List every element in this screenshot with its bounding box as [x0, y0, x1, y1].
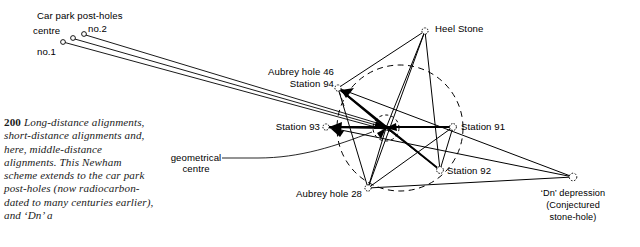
node-dn-depression[interactable]	[569, 173, 577, 181]
node-carpark-no2[interactable]	[82, 32, 87, 37]
node-station-92[interactable]	[437, 167, 444, 174]
node-aubrey-hole-28[interactable]	[365, 185, 371, 191]
label-station-93: Station 93	[196, 121, 320, 132]
label-car-park-post-holes: Car park post-holes	[37, 10, 123, 21]
node-carpark-no1[interactable]	[61, 40, 66, 45]
label-geometrical-centre-line1: geometrical	[168, 152, 224, 163]
label-car-park-no2: no.2	[88, 23, 107, 34]
label-aubrey-hole-46: Aubrey hole 46	[206, 66, 334, 77]
line-station94-aubrey28	[338, 88, 368, 188]
label-heel-stone: Heel Stone	[435, 23, 483, 34]
label-station-92: Station 92	[447, 165, 491, 176]
label-dn-depression-line3: stone-hole)	[523, 212, 623, 223]
node-carpark-centre[interactable]	[71, 36, 76, 41]
label-dn-depression-line1: ‘Dn’ depression	[523, 188, 623, 199]
label-geometrical-centre-line2: centre	[168, 163, 224, 174]
node-station-93[interactable]	[323, 124, 329, 130]
label-car-park-no1: no.1	[37, 46, 56, 57]
node-markers	[61, 28, 577, 191]
label-car-park-centre: centre	[33, 25, 60, 36]
line-station92-station91	[440, 127, 453, 170]
line-station94-dn	[338, 88, 573, 177]
node-station-91[interactable]	[450, 124, 457, 131]
geometrical-centre-leader	[222, 132, 372, 158]
line-station94-heelstone	[338, 31, 425, 88]
node-station-94[interactable]	[335, 85, 341, 91]
line-heelstone-aubrey28	[368, 31, 425, 188]
label-station-91: Station 91	[461, 121, 505, 132]
node-heel-stone[interactable]	[422, 28, 428, 34]
label-dn-depression-line2: (Conjectured	[523, 200, 623, 211]
label-aubrey-hole-28: Aubrey hole 28	[180, 188, 362, 199]
figure-200: 200Long-distance alignments, short-dista…	[0, 0, 640, 247]
alignment-lines-heavy	[326, 88, 453, 170]
line-aubrey28-dn	[368, 177, 573, 188]
label-station-94: Station 94	[206, 78, 334, 89]
